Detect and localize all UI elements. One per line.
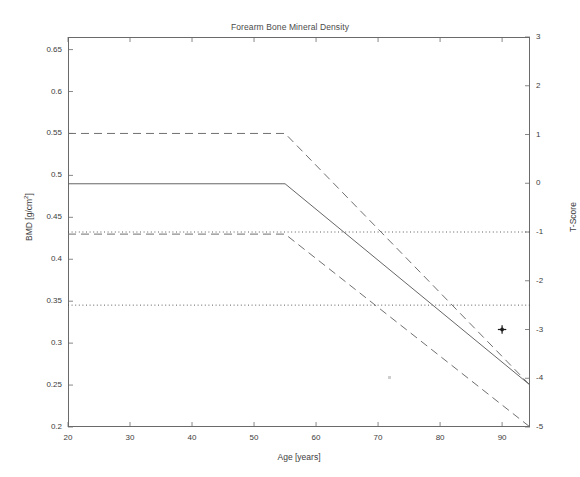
series-line: [68, 234, 530, 427]
series-line: [68, 184, 530, 385]
x-tick-label: 80: [420, 433, 460, 442]
y-tick-label-left: 0.3: [24, 338, 62, 347]
y-tick-label-right: -2: [536, 276, 560, 285]
y-tick-label-left: 0.65: [24, 45, 62, 54]
y-tick-label-right: 1: [536, 130, 560, 139]
y-tick-label-right: 3: [536, 32, 560, 41]
chart-figure: Forearm Bone Mineral Density BMD [g/cm2]…: [0, 0, 580, 477]
x-tick-label: 70: [358, 433, 398, 442]
x-tick-label: 50: [234, 433, 274, 442]
y-tick-label-right: -1: [536, 227, 560, 236]
series-line: [68, 133, 530, 385]
y-tick-label-left: 0.55: [24, 128, 62, 137]
y-tick-label-right: -5: [536, 422, 560, 431]
x-tick-label: 90: [482, 433, 522, 442]
y-tick-label-left: 0.4: [24, 254, 62, 263]
x-tick-label: 30: [110, 433, 150, 442]
y-tick-label-left: 0.25: [24, 380, 62, 389]
y-tick-label-right: 0: [536, 178, 560, 187]
x-axis-label: Age [years]: [68, 452, 530, 462]
data-point-marker: [498, 325, 506, 333]
x-tick-label: 20: [48, 433, 88, 442]
y-tick-label-left: 0.2: [24, 422, 62, 431]
y-tick-label-left: 0.45: [24, 212, 62, 221]
x-tick-label: 40: [172, 433, 212, 442]
y-tick-label-left: 0.5: [24, 170, 62, 179]
stray-pixel-artifact: [388, 376, 391, 379]
chart-canvas: [0, 0, 580, 477]
y-tick-label-right: -3: [536, 325, 560, 334]
y-tick-label-right: -4: [536, 373, 560, 382]
x-tick-label: 60: [296, 433, 336, 442]
y-tick-label-left: 0.35: [24, 296, 62, 305]
y-tick-label-left: 0.6: [24, 87, 62, 96]
y-axis-label-right: T-Score: [568, 172, 578, 262]
y-tick-label-right: 2: [536, 81, 560, 90]
